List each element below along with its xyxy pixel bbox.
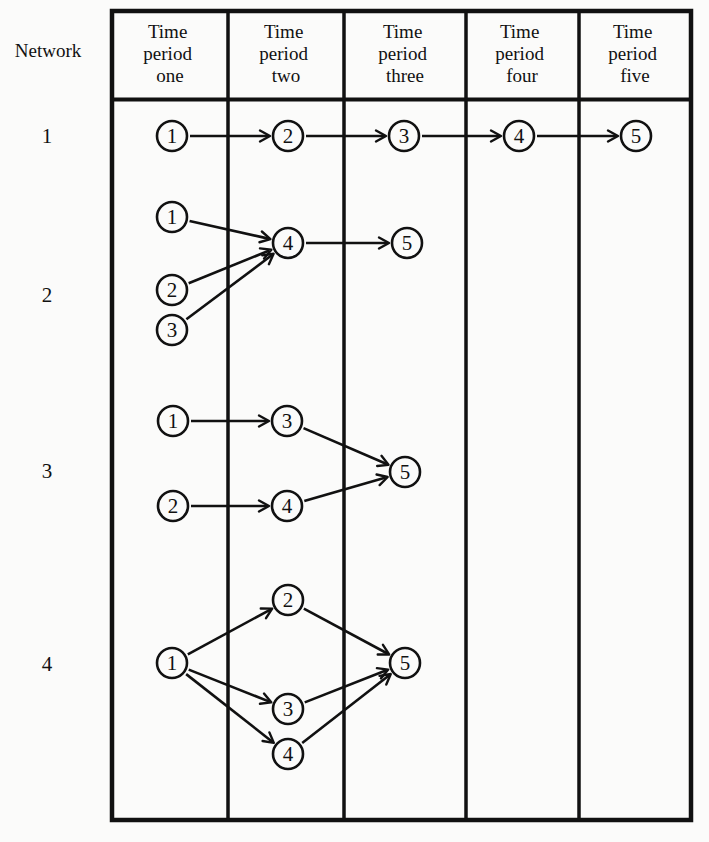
node-label: 3 [283,697,294,721]
node-5: 5 [390,648,420,678]
node-1: 1 [158,406,188,436]
node-label: 4 [514,124,525,148]
header-time-period-four: Time period four [495,21,548,86]
node-label: 1 [167,651,178,675]
network-label: 2 [42,283,53,307]
node-3: 3 [273,694,303,724]
node-label: 5 [400,460,411,484]
edge-1-to-2 [190,131,270,142]
network-label: 3 [42,459,53,483]
node-4: 4 [504,121,534,151]
edge-4-to-5 [302,674,391,743]
node-label: 2 [167,278,178,302]
node-3: 3 [157,315,187,345]
node-label: 1 [167,205,178,229]
edge-1-to-2 [188,609,272,655]
edge-1-to-4 [186,674,274,743]
network-time-period-diagram: Network Time period one Time period two … [0,0,709,842]
node-label: 2 [283,124,294,148]
edge-2-to-5 [304,609,389,655]
network-1: 112345 [42,121,651,151]
node-1: 1 [157,202,187,232]
network-label: 1 [42,124,53,148]
node-label: 5 [631,124,642,148]
edge-3-to-4 [186,254,273,319]
edge-2-to-4 [191,501,269,512]
node-4: 4 [273,739,303,769]
node-label: 2 [168,494,179,518]
header-time-period-three: Time period three [378,21,431,86]
time-period-headers: Time period one Time period two Time per… [143,21,661,86]
edge-3-to-5 [304,428,389,466]
node-2: 2 [157,275,187,305]
node-label: 3 [399,124,410,148]
node-2: 2 [158,491,188,521]
node-4: 4 [272,491,302,521]
edge-4-to-5 [304,474,387,501]
networks: 112345212345312345412345 [42,121,651,769]
node-5: 5 [392,228,422,258]
network-label: 4 [42,652,53,676]
node-label: 2 [283,588,294,612]
edge-2-to-3 [306,131,386,142]
node-label: 1 [168,409,179,433]
network-3: 312345 [42,406,420,521]
edge-3-to-4 [422,131,501,142]
node-3: 3 [272,406,302,436]
header-time-period-two: Time period two [259,21,312,86]
node-label: 3 [167,318,178,342]
edge-1-to-3 [191,416,269,427]
network-column-header: Network [15,40,82,61]
node-label: 1 [167,124,178,148]
node-4: 4 [273,228,303,258]
network-2: 212345 [42,202,422,345]
node-label: 4 [282,494,293,518]
node-label: 4 [283,231,294,255]
network-4: 412345 [42,585,420,769]
header-time-period-five: Time period five [608,21,661,86]
edge-4-to-5 [306,238,389,249]
node-1: 1 [157,121,187,151]
edge-1-to-4 [190,221,271,242]
node-5: 5 [621,121,651,151]
node-label: 5 [402,231,413,255]
node-2: 2 [273,585,303,615]
header-time-period-one: Time period one [143,21,196,86]
node-label: 5 [400,651,411,675]
node-label: 4 [283,742,294,766]
node-1: 1 [157,648,187,678]
node-3: 3 [389,121,419,151]
node-5: 5 [390,457,420,487]
node-2: 2 [273,121,303,151]
node-label: 3 [282,409,293,433]
